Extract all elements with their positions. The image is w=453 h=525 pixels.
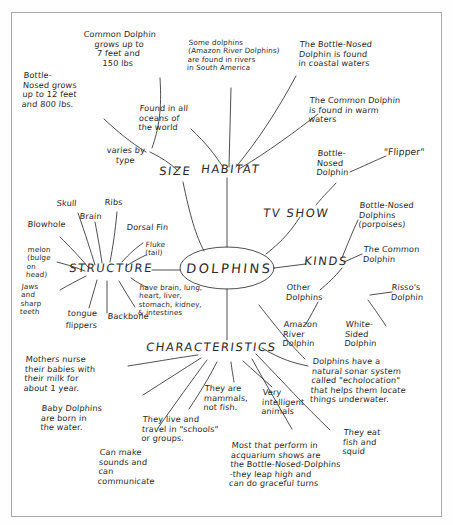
- node-struct-ribs: Ribs: [104, 198, 122, 208]
- node-struct-fluke: Fluke (tail): [145, 241, 166, 258]
- node-kinds-other: Other Dolphins: [286, 283, 324, 302]
- node-tv-flipper: "Flipper": [383, 147, 425, 158]
- node-kinds-whitesided: White- Sided Dolphin: [344, 320, 378, 349]
- branch-label-size: SIZE: [158, 164, 192, 178]
- node-habitat-coastal: The Bottle-Nosed Dolphin is found in coa…: [298, 40, 372, 69]
- branch-label-structure: STRUCTURE: [68, 261, 154, 275]
- node-char-born: Baby Dolphins are born in the water.: [40, 404, 102, 433]
- node-habitat-warm: The Common Dolphin is found in warm wate…: [308, 96, 401, 125]
- node-char-schools: They live and travel in "schools" or gro…: [141, 415, 219, 444]
- node-habitat-all-oceans: Found in all oceans of the world: [138, 104, 188, 133]
- node-struct-brain: Brain: [79, 212, 102, 222]
- branch-label-tvshow: TV SHOW: [262, 206, 330, 220]
- node-char-sounds: Can make sounds and can communicate: [97, 448, 157, 486]
- node-struct-melon: melon (bulge on head): [26, 246, 52, 279]
- center-node-dolphins: DOLPHINS: [185, 261, 273, 276]
- mindmap-sheet: DOLPHINS SIZE HABITAT TV SHOW KINDS STRU…: [0, 0, 453, 525]
- node-char-intelligent: Very intelligent animals: [261, 388, 305, 417]
- branch-label-characteristics: CHARACTERISTICS: [145, 340, 277, 354]
- node-char-mammals: They are mammals, not fish.: [203, 384, 249, 413]
- branch-label-kinds: KINDS: [303, 254, 348, 268]
- node-struct-blowhole: Blowhole: [27, 220, 66, 230]
- node-kinds-rissos: Risso's Dolphin: [391, 283, 424, 302]
- node-char-aquarium: Most that perform in acquarium shows are…: [229, 441, 342, 489]
- node-size-varies: varies by type: [106, 146, 146, 165]
- node-size-common: Common Dolphin grows up to 7 feet and 15…: [81, 30, 156, 68]
- node-char-sonar: Dolphins have a natural sonar system cal…: [310, 357, 408, 405]
- node-tv-bottlenose: Bottle- Nosed Dolphin: [316, 149, 350, 178]
- node-struct-dorsalfin: Dorsal Fin: [126, 223, 168, 233]
- node-char-eat: They eat fish and squid: [342, 428, 381, 457]
- branch-label-habitat: HABITAT: [200, 162, 261, 176]
- node-struct-flippers: flippers: [65, 321, 97, 331]
- node-kinds-amazon: Amazon River Dolphin: [282, 320, 318, 349]
- node-habitat-rivers: Some dolphins (Amazon River Dolphins) ar…: [187, 39, 281, 72]
- node-kinds-common: The Common Dolphin: [363, 245, 420, 264]
- node-char-nurse: Mothers nurse their babies with their mi…: [23, 355, 96, 393]
- node-struct-organs: have brain, lung, heart, liver, stomach,…: [138, 284, 204, 317]
- node-struct-skull: Skull: [56, 199, 77, 209]
- node-struct-tongue: tongue: [67, 309, 97, 319]
- node-struct-jaws: Jaws and sharp teeth: [20, 283, 43, 316]
- node-kinds-bottlenose: Bottle-Nosed Dolphins (porpoises): [358, 201, 414, 230]
- node-size-bottlenose: Bottle- Nosed grows up to 12 feet and 80…: [21, 71, 78, 109]
